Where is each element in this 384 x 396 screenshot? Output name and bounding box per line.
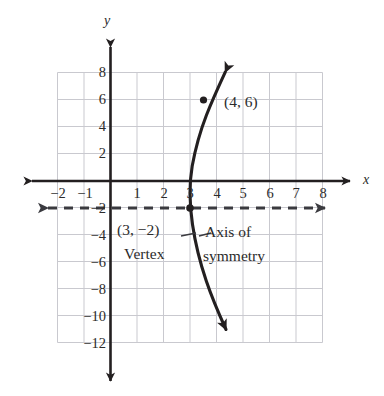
vertex-point-marker	[186, 204, 194, 212]
x-tick-label-2: 2	[160, 186, 167, 201]
y-axis-label: y	[104, 14, 110, 28]
vertex-coordinates-label: (3, −2)	[117, 222, 159, 238]
y-tick-label-neg8: −8	[79, 282, 106, 297]
x-tick-label-6: 6	[266, 186, 273, 201]
axis-of-symmetry-label-line1: Axis of	[205, 222, 251, 242]
x-tick-label-7: 7	[292, 186, 299, 201]
point-4-6-marker	[200, 96, 207, 103]
x-tick-label-1: 1	[133, 186, 140, 201]
y-tick-label-neg10: −10	[71, 309, 106, 324]
x-axis-label: x	[363, 173, 369, 187]
x-tick-label-3: 3	[186, 186, 193, 201]
y-tick-label-4: 4	[86, 119, 106, 134]
axis-of-symmetry-label-line2: symmetry	[203, 246, 265, 266]
y-tick-label-2: 2	[86, 146, 106, 161]
parabola-graph-figure: y x −2 −1 1 2 3 4 5 6 7 8 8 6 4 2 −2 −4 …	[0, 0, 384, 396]
parabola-curve	[190, 72, 226, 330]
x-tick-label-8: 8	[319, 186, 326, 201]
vertex-word-label: Vertex	[124, 246, 164, 262]
y-tick-label-neg6: −6	[79, 255, 106, 270]
y-tick-label-neg12: −12	[71, 336, 106, 351]
point-label-4-6: (4, 6)	[224, 94, 258, 110]
y-tick-label-neg2: −2	[79, 201, 106, 216]
y-tick-label-8: 8	[86, 65, 106, 80]
x-tick-label-neg1: −1	[77, 186, 92, 201]
x-tick-label-neg2: −2	[50, 186, 65, 201]
y-tick-label-6: 6	[86, 92, 106, 107]
x-tick-label-4: 4	[213, 186, 220, 201]
x-tick-label-5: 5	[239, 186, 246, 201]
y-tick-label-neg4: −4	[79, 228, 106, 243]
